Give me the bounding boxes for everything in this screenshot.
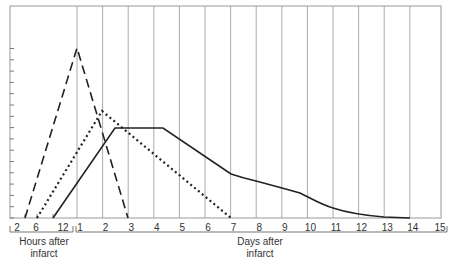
x-tick-labels: 2612123456789101112131415 <box>14 222 446 233</box>
x-tick-label-days: 13 <box>382 222 394 233</box>
hours-axis-label-1: Hours after <box>19 236 69 247</box>
x-tick-label-days: 4 <box>154 222 160 233</box>
hours-axis-label-2: infarct <box>30 248 57 259</box>
x-tick-label-days: 10 <box>305 222 317 233</box>
x-tick-label-days: 14 <box>407 222 419 233</box>
series-solid <box>53 128 410 218</box>
vertical-gridlines <box>77 6 410 218</box>
x-tick-label-days: 12 <box>356 222 368 233</box>
chart: 2612123456789101112131415 Hours after in… <box>0 0 451 266</box>
days-axis-label-1: Days after <box>237 236 283 247</box>
x-tick-label-days: 7 <box>231 222 237 233</box>
x-tick-label-days: 6 <box>205 222 211 233</box>
x-tick-label-hours: 6 <box>33 222 39 233</box>
x-tick-label-days: 2 <box>103 222 109 233</box>
x-tick-label-days: 9 <box>282 222 288 233</box>
x-tick-label-hours: 12 <box>57 222 69 233</box>
x-tick-label-days: 11 <box>331 222 342 233</box>
x-tick-label-days: 1 <box>77 222 83 233</box>
series-dotted <box>37 111 231 218</box>
days-axis-label-2: infarct <box>246 248 273 259</box>
x-tick-label-days: 5 <box>180 222 186 233</box>
x-tick-label-days: 15 <box>434 222 446 233</box>
y-axis-ticks <box>10 49 53 219</box>
x-tick-label-days: 8 <box>256 222 262 233</box>
x-tick-label-days: 3 <box>128 222 134 233</box>
x-tick-label-hours: 2 <box>14 222 20 233</box>
